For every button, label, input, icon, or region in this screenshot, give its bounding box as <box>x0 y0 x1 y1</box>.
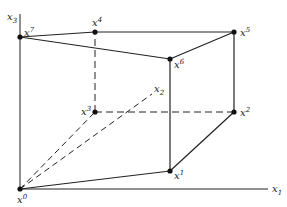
vertex-label-x2: x2 <box>240 106 251 118</box>
edge-x0-x3 <box>20 112 95 189</box>
edge-x0-x1 <box>20 171 170 189</box>
vertex-x5 <box>231 29 236 34</box>
vertex-x1 <box>167 168 172 173</box>
vertex-label-x0: x0 <box>17 193 28 205</box>
axis-label-x3: x3 <box>7 11 18 25</box>
vertex-x4 <box>92 29 97 34</box>
vertex-label-x1: x1 <box>174 169 184 181</box>
vertex-x3 <box>92 109 97 114</box>
vertex-label-x6: x6 <box>174 58 185 70</box>
polytope-diagram: x3 x1 x2 x0 x1 x2 x3 x4 x5 x6 x7 <box>0 0 287 207</box>
vertex-x0 <box>17 186 22 191</box>
axis-label-x1: x1 <box>272 183 282 197</box>
edge-x1-x2 <box>170 112 234 171</box>
edge-x5-x6 <box>170 32 234 59</box>
vertex-x6 <box>167 56 172 61</box>
vertex-label-x3: x3 <box>81 105 92 117</box>
vertex-label-x4: x4 <box>92 16 102 28</box>
vertex-x2 <box>231 109 236 114</box>
vertex-label-x5: x5 <box>240 26 251 38</box>
axis-label-x2: x2 <box>154 83 165 97</box>
vertex-x7 <box>17 34 22 39</box>
